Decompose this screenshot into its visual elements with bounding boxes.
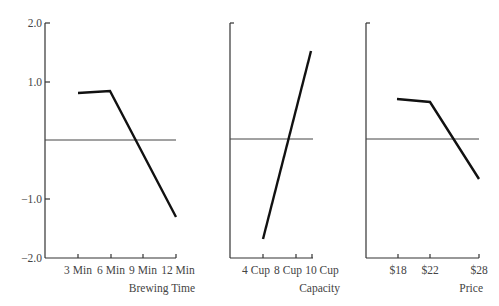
x-tick-label: $28 <box>470 264 488 276</box>
panel-capacity: 4 Cup 8 Cup 10 Cup Capacity <box>230 23 340 295</box>
x-tick-label: 8 Cup <box>274 264 302 277</box>
panel-price: $18 $22 $28 Price <box>366 23 488 294</box>
x-axis-title: Price <box>459 282 483 294</box>
series-line-capacity <box>263 51 311 239</box>
x-tick-label: 9 Min <box>129 264 157 276</box>
x-tick-label: $22 <box>421 264 439 276</box>
series-line-brewing-time <box>78 91 176 217</box>
x-axis-title: Brewing Time <box>129 282 195 295</box>
y-tick-label: −2.0 <box>21 252 42 264</box>
x-tick-label: 6 Min <box>97 264 125 276</box>
panel-brewing-time: 2.0 1.0 −1.0 −2.0 3 Min 6 Min 9 Min 12 M… <box>21 17 195 295</box>
x-tick-label: 10 Cup <box>305 264 339 277</box>
y-tick-label: 1.0 <box>28 76 43 88</box>
x-tick-label: 4 Cup <box>242 264 270 277</box>
x-tick-label: 12 Min <box>161 264 195 276</box>
part-worth-charts: 2.0 1.0 −1.0 −2.0 3 Min 6 Min 9 Min 12 M… <box>0 0 499 306</box>
y-tick-label: 2.0 <box>28 17 43 29</box>
y-tick-label: −1.0 <box>21 193 42 205</box>
x-tick-label: 3 Min <box>64 264 92 276</box>
x-axis-title: Capacity <box>299 282 340 295</box>
x-tick-label: $18 <box>389 264 407 276</box>
